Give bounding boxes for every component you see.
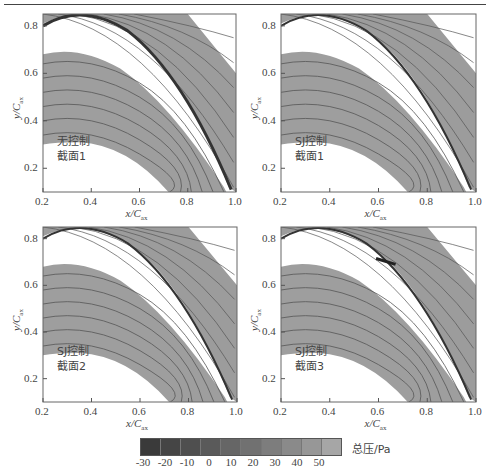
y-tick-label: 0.6 <box>24 66 38 78</box>
colorbar-swatch <box>241 439 261 455</box>
colorbar-tick-label: 20 <box>248 456 259 468</box>
x-tick-label: 0.2 <box>273 405 287 417</box>
y-tick-label: 0.2 <box>262 372 276 384</box>
x-axis-label: x/Cax <box>365 417 387 432</box>
y-tick-label: 0.8 <box>24 232 38 244</box>
panel-annotation: 无控制截面1 <box>57 134 90 164</box>
colorbar-swatch <box>201 439 221 455</box>
y-tick-label: 0.4 <box>24 114 38 126</box>
x-tick-label: 0.4 <box>322 405 336 417</box>
x-tick-label: 0.2 <box>35 195 49 207</box>
colorbar-tick-label: -30 <box>136 456 151 468</box>
y-tick-label: 0.2 <box>24 161 38 173</box>
colorbar-tick-label: -10 <box>180 456 195 468</box>
panel-annotation: SJ控制截面3 <box>295 344 327 374</box>
colorbar-tick-label: 40 <box>292 456 303 468</box>
x-tick-label: 1.0 <box>468 405 482 417</box>
x-tick-label: 0.6 <box>371 195 385 207</box>
colorbar-tick-label: 0 <box>206 456 212 468</box>
y-axis-label: y/Cax <box>10 97 25 119</box>
x-tick-label: 1.0 <box>228 195 242 207</box>
x-tick-label: 0.8 <box>419 195 433 207</box>
y-axis-label: y/Cax <box>248 309 263 331</box>
colorbar-swatch <box>282 439 302 455</box>
colorbar-swatch <box>221 439 241 455</box>
x-tick-label: 0.4 <box>83 195 97 207</box>
colorbar-tick-label: -20 <box>158 456 173 468</box>
x-tick-label: 0.6 <box>132 195 146 207</box>
y-tick-label: 0.4 <box>24 325 38 337</box>
x-tick-label: 1.0 <box>468 195 482 207</box>
colorbar-swatch <box>262 439 282 455</box>
x-axis-label: x/Cax <box>126 417 148 432</box>
x-axis-label: x/Cax <box>365 207 387 222</box>
colorbar-tick-label: 50 <box>314 456 325 468</box>
x-tick-label: 0.6 <box>132 405 146 417</box>
y-tick-label: 0.2 <box>262 161 276 173</box>
y-tick-label: 0.8 <box>262 232 276 244</box>
colorbar-swatch <box>141 439 161 455</box>
colorbar-swatch <box>322 439 341 455</box>
y-tick-label: 0.4 <box>262 114 276 126</box>
header-rule <box>4 4 486 5</box>
x-tick-label: 0.2 <box>273 195 287 207</box>
contour-panel-3 <box>43 227 237 402</box>
x-axis-label: x/Cax <box>126 207 148 222</box>
y-tick-label: 0.6 <box>262 66 276 78</box>
contour-panel-1 <box>43 14 236 192</box>
y-axis-label: y/Cax <box>248 97 263 119</box>
y-tick-label: 0.6 <box>24 278 38 290</box>
y-tick-label: 0.4 <box>262 325 276 337</box>
x-tick-label: 0.4 <box>322 195 336 207</box>
x-tick-label: 0.8 <box>180 195 194 207</box>
panel-annotation: SJ控制截面1 <box>295 134 327 164</box>
colorbar-swatch <box>181 439 201 455</box>
colorbar-swatch <box>161 439 181 455</box>
y-tick-label: 0.8 <box>262 19 276 31</box>
colorbar-tick-label: 10 <box>226 456 237 468</box>
x-tick-label: 0.4 <box>84 405 98 417</box>
colorbar-swatch <box>302 439 322 455</box>
y-tick-label: 0.8 <box>24 19 38 31</box>
colorbar-tick-label: 30 <box>270 456 281 468</box>
y-tick-label: 0.2 <box>24 372 38 384</box>
x-tick-label: 0.6 <box>371 405 385 417</box>
x-tick-label: 1.0 <box>229 405 243 417</box>
y-tick-label: 0.6 <box>262 278 276 290</box>
x-tick-label: 0.8 <box>181 405 195 417</box>
colorbar-title: 总压/Pa <box>352 440 391 456</box>
contour-panel-4 <box>281 227 476 402</box>
x-tick-label: 0.8 <box>419 405 433 417</box>
x-tick-label: 0.2 <box>35 405 49 417</box>
colorbar <box>140 438 342 456</box>
y-axis-label: y/Cax <box>10 309 25 331</box>
contour-panel-2 <box>281 14 476 192</box>
panel-annotation: SJ控制截面2 <box>57 344 89 374</box>
